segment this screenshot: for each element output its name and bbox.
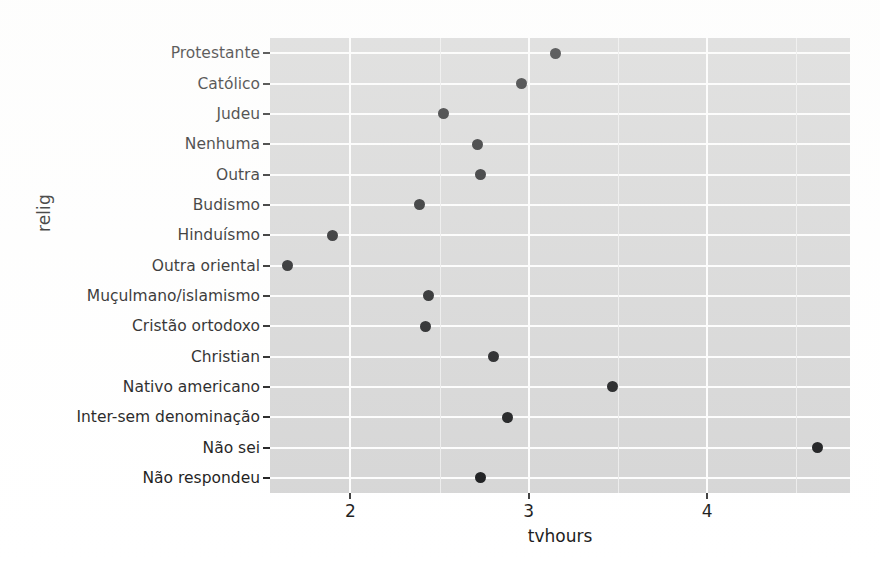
y-axis-tick-label: Nenhuma [60,136,260,152]
data-point [488,351,499,362]
y-axis-tick-label: Judeu [60,106,260,122]
vertical-gridline-major [349,38,351,493]
y-axis-tick-label: Nativo americano [60,379,260,395]
horizontal-gridline [270,295,850,297]
x-axis: tvhours 234 [270,493,850,553]
data-point [502,412,513,423]
y-axis-tick-label: Outra [60,167,260,183]
horizontal-gridline [270,325,850,327]
y-axis-tick-mark [263,52,270,54]
data-point [423,290,434,301]
horizontal-gridline [270,204,850,206]
y-axis-tick-label: Outra oriental [60,258,260,274]
data-point [472,139,483,150]
x-axis-title: tvhours [270,526,850,546]
horizontal-gridline [270,83,850,85]
y-axis-tick-mark [263,477,270,479]
y-axis-tick-mark [263,325,270,327]
plot-panel [270,38,850,493]
y-axis-tick-label: Protestante [60,45,260,61]
horizontal-gridline [270,447,850,449]
y-axis-tick-mark [263,356,270,358]
horizontal-gridline [270,174,850,176]
vertical-gridline-minor [796,38,797,493]
chart-container: relig ProtestanteCatólicoJudeuNenhumaOut… [0,0,880,566]
horizontal-gridline [270,356,850,358]
y-axis-tick-mark [263,143,270,145]
y-axis-tick-mark [263,416,270,418]
y-axis-tick-label: Budismo [60,197,260,213]
y-axis-tick-mark [263,113,270,115]
y-axis-tick-label: Cristão ortodoxo [60,318,260,334]
y-axis-tick-mark [263,174,270,176]
y-axis-tick-label: Católico [60,76,260,92]
horizontal-gridline [270,265,850,267]
y-axis-tick-mark [263,234,270,236]
data-point [607,381,618,392]
y-axis-tick-mark [263,83,270,85]
data-point [550,48,561,59]
y-axis-tick-mark [263,447,270,449]
x-axis-tick-label: 4 [687,501,727,521]
data-point [812,442,823,453]
vertical-gridline-minor [618,38,619,493]
vertical-gridline-major [528,38,530,493]
horizontal-gridline [270,416,850,418]
data-point [414,199,425,210]
y-axis-title: relig [34,194,54,232]
y-axis-tick-label: Christian [60,349,260,365]
y-axis-tick-label: Não respondeu [60,470,260,486]
x-axis-tick-label: 3 [509,501,549,521]
y-axis-tick-label: Hinduísmo [60,227,260,243]
x-axis-tick-mark [706,493,708,499]
horizontal-gridline [270,113,850,115]
data-point [282,260,293,271]
vertical-gridline-major [706,38,708,493]
data-point [327,230,338,241]
horizontal-gridline [270,234,850,236]
y-axis-tick-mark [263,204,270,206]
data-point [475,472,486,483]
y-axis-tick-label: Inter-sem denominação [60,409,260,425]
x-axis-tick-label: 2 [330,501,370,521]
y-axis-tick-mark [263,265,270,267]
y-axis-tick-label: Não sei [60,440,260,456]
data-point [475,169,486,180]
x-axis-tick-mark [349,493,351,499]
y-axis-tick-mark [263,386,270,388]
x-axis-tick-mark [528,493,530,499]
y-axis-tick-mark [263,295,270,297]
horizontal-gridline [270,143,850,145]
data-point [516,78,527,89]
horizontal-gridline [270,386,850,388]
data-point [438,108,449,119]
horizontal-gridline [270,477,850,479]
y-axis-tick-labels: ProtestanteCatólicoJudeuNenhumaOutraBudi… [60,38,260,493]
y-axis-tick-label: Muçulmano/islamismo [60,288,260,304]
vertical-gridline-minor [440,38,441,493]
data-point [420,321,431,332]
